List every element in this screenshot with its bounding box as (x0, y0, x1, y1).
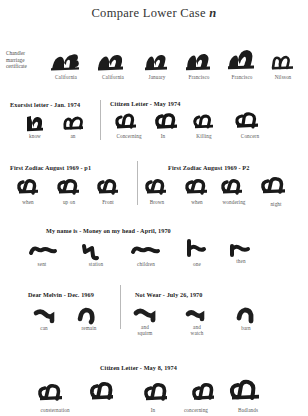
glyph-label-front: Front (88, 199, 128, 205)
glyph-sample-badlands-a (188, 379, 222, 407)
glyph-sample-badlands (226, 375, 270, 407)
glyph-sample-concerning-2 (140, 379, 176, 407)
page-title-letter: n (209, 6, 216, 20)
glyph-label-california-2: California (88, 74, 138, 80)
glyph-label-children: children (122, 261, 170, 267)
glyph-label-wondering: wondering (210, 199, 258, 205)
glyph-sample-know (22, 111, 48, 133)
row-header-citizen-may-1974: Citizen Letter - May 1974 (110, 100, 180, 107)
glyph-sample-can (30, 305, 60, 327)
glyph-sample-when (14, 175, 46, 199)
glyph-label-barn: barn (228, 325, 264, 331)
glyph-sample-in-2 (86, 377, 122, 405)
column-divider-exorsist (100, 100, 101, 140)
glyph-sample-consternation (34, 379, 72, 407)
glyph-label-francisco-1: Francisco (176, 74, 222, 80)
glyph-sample-one (182, 235, 214, 263)
glyph-label-concerning: Concerning (104, 133, 154, 139)
glyph-label-in-2: In (140, 407, 166, 413)
glyph-label-night: night (256, 201, 296, 207)
glyph-label-one: one (178, 261, 216, 267)
glyph-sample-brown (142, 175, 174, 199)
glyph-label-know: know (16, 133, 54, 139)
glyph-label-then: then (222, 258, 260, 264)
glyph-sample-sent (26, 239, 62, 263)
glyph-label-concern: Concern (226, 133, 274, 139)
row-header-citizen-may-8: Citizen Letter - May 8, 1974 (100, 364, 177, 371)
glyph-label-january: January (135, 74, 179, 80)
glyph-label-station: station (74, 261, 118, 267)
column-divider-melvin (120, 285, 121, 329)
glyph-label-can: can (26, 325, 62, 331)
glyph-label-brown: Brown (136, 199, 178, 205)
page-title: Compare Lower Case n (0, 0, 308, 21)
glyph-label-francisco-2: Francisco (219, 74, 265, 80)
glyph-sample-children (128, 239, 164, 263)
glyph-sample-night (258, 173, 292, 199)
row-header-zodiac-p2: First Zodiac August 1969 - P2 (168, 164, 249, 171)
glyph-sample-up-on (54, 175, 86, 199)
glyph-label-remain: remain (68, 325, 110, 331)
glyph-label-and-watch: and watch (176, 324, 218, 336)
glyph-label-up-on: up on (50, 199, 88, 205)
glyph-sample-francisco-1 (183, 50, 213, 73)
glyph-sample-station (78, 237, 112, 263)
row-header-not-wear: Not Wear - July 26, 1970 (135, 291, 202, 298)
glyph-label-an: an (55, 133, 91, 139)
glyph-label-badlands: Badlands (222, 407, 274, 413)
row-header-my-name-is: My name is - Money on my head - April, 1… (46, 227, 171, 234)
row-chandler-side-label: Chandler marriage certificate (6, 50, 42, 70)
glyph-sample-remain (74, 303, 104, 327)
glyph-sample-wondering (218, 175, 250, 199)
glyph-sample-california-2 (96, 51, 128, 73)
glyph-label-consternation: consternation (24, 407, 86, 413)
glyph-label-and-squirm: and squirm (124, 324, 166, 336)
glyph-sample-when-2 (182, 175, 214, 199)
glyph-label-california-1: California (40, 74, 92, 80)
glyph-sample-front (94, 175, 126, 199)
glyph-sample-killing (190, 111, 220, 133)
glyph-label-in: In (148, 133, 178, 139)
glyph-label-when-1: when (8, 199, 48, 205)
glyph-sample-january (142, 51, 170, 73)
glyph-label-sent: sent (22, 261, 62, 267)
glyph-sample-nilsson (269, 52, 297, 73)
page-title-text: Compare Lower Case (91, 6, 209, 20)
glyph-sample-francisco-2 (226, 48, 258, 73)
row-header-zodiac-p1: First Zodiac August 1969 - p1 (10, 164, 91, 171)
glyph-sample-california-1 (49, 51, 83, 73)
glyph-sample-concern (232, 109, 266, 133)
glyph-label-concerning-2: concerning (170, 407, 222, 413)
handwriting-comparison-sheet: Compare Lower Case n Chandler marriage c… (0, 0, 308, 416)
row-header-exorsist: Exorsist letter - Jan. 1974 (10, 101, 80, 108)
glyph-label-nilsson: Nilsson (262, 74, 304, 80)
glyph-sample-barn (232, 303, 264, 327)
row-header-dear-melvin: Dear Melvin - Dec. 1969 (28, 291, 94, 298)
glyph-sample-concerning (112, 109, 144, 133)
glyph-label-killing: Killing (182, 133, 226, 139)
glyph-sample-in (152, 109, 184, 133)
glyph-sample-an (60, 113, 88, 133)
